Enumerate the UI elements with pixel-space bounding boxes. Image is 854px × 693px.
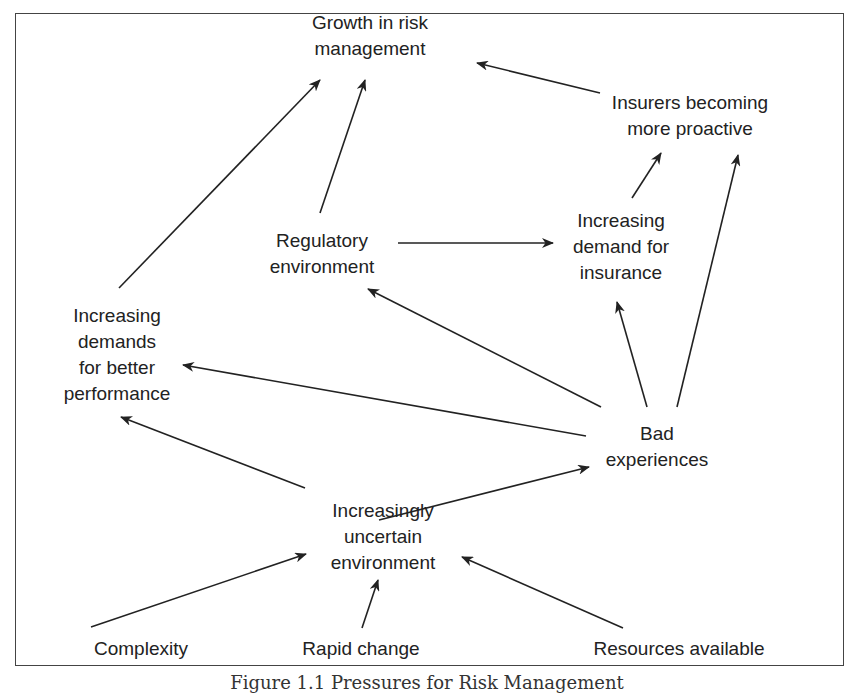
node-line: Increasingly	[331, 498, 436, 524]
node-line: uncertain	[331, 524, 436, 550]
node-line: environment	[331, 550, 436, 576]
node-line: environment	[270, 254, 375, 280]
node-complexity: Complexity	[94, 636, 188, 662]
node-demand-for-insurance: Increasing demand for insurance	[573, 208, 669, 286]
arrow-insurers-to-growth	[477, 63, 600, 93]
arrow-uncertain-to-performance	[121, 417, 305, 488]
arrow-resources-to-uncertain	[462, 557, 623, 628]
node-line: Insurers becoming	[612, 90, 768, 116]
node-line: Complexity	[94, 636, 188, 662]
arrow-bad-experiences-to-performance	[183, 365, 586, 436]
arrow-regulatory-to-growth	[320, 80, 365, 213]
node-line: experiences	[606, 447, 708, 473]
node-uncertain-environment: Increasingly uncertain environment	[331, 498, 436, 576]
node-line: demands	[64, 329, 171, 355]
arrow-complexity-to-uncertain	[91, 554, 306, 627]
node-line: Increasing	[573, 208, 669, 234]
node-line: performance	[64, 381, 171, 407]
node-regulatory-environment: Regulatory environment	[270, 228, 375, 280]
node-line: demand for	[573, 234, 669, 260]
node-line: Bad	[606, 421, 708, 447]
node-insurers-proactive: Insurers becoming more proactive	[612, 90, 768, 142]
node-rapid-change: Rapid change	[302, 636, 419, 662]
node-line: Increasing	[64, 303, 171, 329]
node-demands-better-performance: Increasing demands for better performanc…	[64, 303, 171, 407]
node-line: Rapid change	[302, 636, 419, 662]
arrow-bad-experiences-to-regulatory	[368, 289, 601, 407]
node-line: Growth in risk	[312, 10, 428, 36]
node-bad-experiences: Bad experiences	[606, 421, 708, 473]
figure-caption: Figure 1.1 Pressures for Risk Management	[0, 672, 854, 693]
node-line: Resources available	[593, 636, 764, 662]
node-growth-in-risk-management: Growth in risk management	[312, 10, 428, 62]
arrow-bad-experiences-to-demand-insurance	[617, 302, 647, 407]
node-line: more proactive	[612, 116, 768, 142]
arrow-demand-insurance-to-insurers	[632, 153, 661, 198]
node-line: management	[312, 36, 428, 62]
node-line: insurance	[573, 260, 669, 286]
node-line: Regulatory	[270, 228, 375, 254]
node-line: for better	[64, 355, 171, 381]
node-resources-available: Resources available	[593, 636, 764, 662]
arrow-bad-experiences-to-insurers	[677, 155, 738, 407]
arrow-rapid-change-to-uncertain	[362, 580, 378, 628]
